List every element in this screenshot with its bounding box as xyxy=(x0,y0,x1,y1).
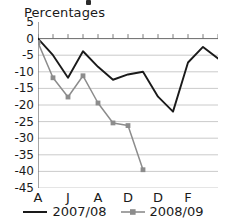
y-tick-label: -30 xyxy=(14,131,34,145)
y-tick-label: -10 xyxy=(14,65,34,79)
data-point-marker xyxy=(66,95,71,100)
legend-item-2008-09[interactable]: 2008/09 xyxy=(120,204,204,219)
legend-label: 2008/09 xyxy=(150,204,204,219)
data-point-marker xyxy=(96,101,101,106)
y-axis-tick-labels: 50-5-10-15-20-25-30-35-40-45 xyxy=(0,22,34,188)
data-point-marker xyxy=(81,73,86,78)
data-point-marker xyxy=(51,75,56,80)
data-point-marker xyxy=(111,121,116,126)
y-tick-label: -45 xyxy=(14,181,34,195)
y-tick-label: -5 xyxy=(22,48,34,62)
y-tick-label: -20 xyxy=(14,98,34,112)
y-tick-label: -25 xyxy=(14,115,34,129)
y-axis-title: Percentages xyxy=(24,5,105,20)
plot-area xyxy=(38,22,218,188)
y-tick-label: 5 xyxy=(26,15,34,29)
data-point-marker xyxy=(126,123,131,128)
legend-item-2007-08[interactable]: 2007/08 xyxy=(22,204,106,219)
y-tick-label: -35 xyxy=(14,148,34,162)
legend-label: 2007/08 xyxy=(52,204,106,219)
legend-swatch-line xyxy=(22,207,48,217)
series-line-2007-08 xyxy=(38,39,218,112)
series-line-2008-09 xyxy=(38,43,143,170)
y-tick-label: 0 xyxy=(26,32,34,46)
legend-swatch-line-marker xyxy=(120,207,146,217)
y-tick-label: -40 xyxy=(14,164,34,178)
chart-legend: 2007/082008/09 xyxy=(0,203,226,220)
chart-figure: Percentages 50-5-10-15-20-25-30-35-40-45… xyxy=(0,0,226,220)
data-point-marker xyxy=(141,167,146,172)
y-tick-label: -15 xyxy=(14,81,34,95)
data-point-marker xyxy=(38,40,40,45)
